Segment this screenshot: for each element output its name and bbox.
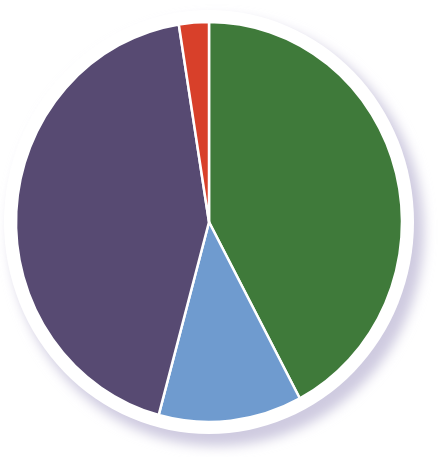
pie-chart: [0, 0, 448, 457]
pie-slices: [16, 22, 402, 422]
